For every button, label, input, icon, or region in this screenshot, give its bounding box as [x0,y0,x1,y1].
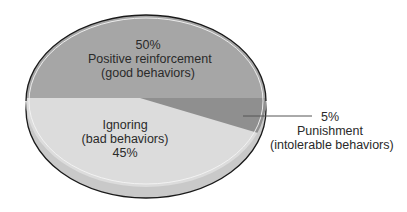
positive-line1: Positive reinforcement [88,52,208,66]
label-punishment: 5% Punishment (intolerable behaviors) [270,110,390,152]
ignoring-percent: 45% [70,146,180,160]
label-ignoring: Ignoring (bad behaviors) 45% [70,118,180,160]
positive-percent: 50% [88,38,208,52]
punishment-line2: (intolerable behaviors) [270,138,390,152]
punishment-percent: 5% [270,110,390,124]
positive-line2: (good behaviors) [88,66,208,80]
ignoring-line1: Ignoring [70,118,180,132]
ignoring-line2: (bad behaviors) [70,132,180,146]
punishment-line1: Punishment [270,124,390,138]
pie-chart [0,0,407,212]
label-positive-reinforcement: 50% Positive reinforcement (good behavio… [88,38,208,80]
